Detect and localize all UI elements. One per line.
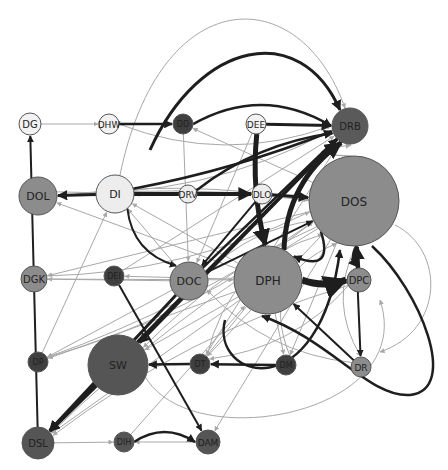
edge-dsl-to-dih — [54, 442, 113, 443]
node-dg: DG — [19, 113, 41, 135]
node-dgk: DGK — [21, 266, 47, 292]
node-sw: SW — [88, 335, 148, 395]
node-dam: DAM — [196, 430, 220, 454]
node-label: DEI — [107, 272, 121, 281]
node-label: DGK — [23, 274, 45, 285]
edge-di-to-dol — [58, 194, 96, 195]
node-drb: DRB — [332, 108, 368, 144]
node-label: DAM — [198, 438, 219, 448]
edge-dhw-to-drb — [119, 124, 331, 145]
curved-edge — [150, 53, 340, 150]
edge-dt-to-sw — [149, 364, 190, 365]
node-label: DEE — [247, 120, 266, 130]
node-dol: DOL — [19, 177, 57, 215]
node-label: DI — [109, 188, 121, 201]
network-canvas: DGDHWDDDEEDRBDOLDIDRVDLODOSDGKDEIDOCDPHD… — [0, 0, 448, 470]
edge-doc-to-di — [128, 209, 177, 266]
edge-dm-to-dt — [211, 364, 276, 365]
node-label: DOS — [341, 195, 367, 209]
node-label: DR — [354, 363, 367, 373]
edge-dee-to-doc — [197, 133, 252, 262]
node-label: DP — [33, 358, 44, 367]
node-di: DI — [96, 175, 134, 213]
node-dph: DPH — [234, 246, 302, 314]
node-dd: DD — [173, 114, 193, 134]
node-label: DD — [177, 120, 189, 129]
node-label: DLO — [253, 190, 272, 200]
curved-edge — [140, 300, 384, 418]
node-dm: DM — [276, 355, 296, 375]
node-drv: DRV — [179, 185, 199, 203]
node-dei: DEI — [104, 266, 124, 286]
node-label: DOL — [26, 190, 50, 203]
edge-dee-to-drb — [266, 124, 331, 125]
node-dee: DEE — [246, 114, 266, 134]
node-dp: DP — [28, 352, 48, 372]
node-dih: DIH — [114, 432, 134, 452]
node-label: DG — [22, 119, 37, 130]
node-dr: DR — [351, 357, 371, 377]
node-label: DT — [194, 360, 205, 369]
curved-edge — [120, 19, 345, 175]
edge-dih-to-dam — [134, 432, 195, 442]
node-label: DPH — [255, 274, 281, 288]
node-label: DIH — [117, 438, 132, 447]
node-label: DRV — [179, 190, 199, 200]
node-dhw: DHW — [98, 114, 121, 134]
node-dt: DT — [190, 354, 210, 374]
node-label: DM — [279, 361, 292, 370]
node-label: DRB — [339, 121, 361, 132]
edge-dph-to-dpc — [302, 280, 346, 284]
node-label: DSL — [28, 438, 48, 449]
node-dsl: DSL — [22, 427, 54, 459]
network-diagram: DGDHWDDDEEDRBDOLDIDRVDLODOSDGKDEIDOCDPHD… — [0, 0, 448, 470]
node-dlo: DLO — [252, 184, 272, 204]
node-dpc: DPC — [347, 268, 371, 292]
node-dos: DOS — [309, 156, 399, 246]
node-label: DHW — [98, 120, 121, 130]
node-doc: DOC — [170, 262, 208, 300]
node-label: SW — [109, 359, 127, 372]
node-label: DOC — [177, 275, 202, 288]
edge-dp-to-di — [42, 212, 107, 353]
node-label: DPC — [349, 275, 370, 286]
